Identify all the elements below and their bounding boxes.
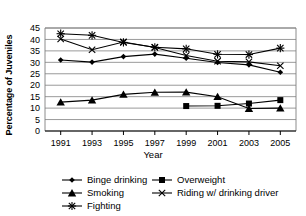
y-axis-title: Percentage of Juveniles (4, 35, 14, 136)
x-tick-label: 1999 (176, 138, 196, 148)
x-tick-label: 1995 (113, 138, 133, 148)
legend-item-overweight[interactable]: Overweight (152, 174, 225, 185)
y-tick-label: 40 (30, 35, 40, 45)
legend-label: Riding w/ drinking driver (177, 187, 278, 198)
data-point (88, 31, 96, 39)
x-tick-label: 1993 (82, 138, 102, 148)
y-tick-label: 30 (30, 58, 40, 68)
data-point (182, 45, 190, 53)
plot-root: 0510152025303540451991199319951997199920… (30, 23, 296, 148)
legend-item-smoking[interactable]: Smoking (62, 187, 124, 198)
data-point (246, 101, 252, 107)
legend-item-binge-drinking[interactable]: Binge drinking (62, 174, 147, 185)
y-tick-label: 0 (35, 126, 40, 136)
data-point (215, 103, 221, 109)
data-point (213, 50, 221, 58)
chart-legend: Binge drinkingOverweightSmokingRiding w/… (62, 174, 278, 211)
x-tick-label: 2003 (239, 138, 259, 148)
y-tick-label: 10 (30, 103, 40, 113)
x-tick-label: 2001 (208, 138, 228, 148)
line-chart: Percentage of Juveniles 0510152025303540… (0, 0, 306, 216)
legend-marker-icon (68, 202, 76, 210)
legend-label: Binge drinking (87, 174, 147, 185)
x-axis-title-text: Year (143, 149, 162, 160)
data-point (152, 51, 158, 57)
legend-label: Overweight (177, 174, 225, 185)
x-tick-label: 2005 (270, 138, 290, 148)
y-tick-label: 5 (35, 115, 40, 125)
legend-marker-icon (159, 177, 165, 183)
data-point (276, 44, 284, 52)
data-point (246, 62, 252, 68)
chart-figure: Percentage of Juveniles 0510152025303540… (0, 0, 306, 216)
y-tick-label: 35 (30, 46, 40, 56)
y-tick-label: 25 (30, 69, 40, 79)
y-tick-label: 20 (30, 80, 40, 90)
x-tick-label: 1991 (51, 138, 71, 148)
data-point (183, 103, 189, 109)
y-axis-title-text: Percentage of Juveniles (4, 35, 14, 136)
y-tick-label: 45 (30, 23, 40, 33)
y-tick-label: 15 (30, 92, 40, 102)
legend-label: Smoking (87, 187, 124, 198)
data-point (277, 97, 283, 103)
x-tick-label: 1997 (145, 138, 165, 148)
data-point (89, 59, 95, 65)
data-point (245, 50, 253, 58)
legend-marker-icon (69, 177, 75, 183)
series-fighting (57, 30, 285, 59)
legend-item-fighting[interactable]: Fighting (62, 200, 121, 211)
data-point (121, 54, 127, 60)
legend-label: Fighting (87, 200, 121, 211)
legend-item-riding-w-drinking-driver[interactable]: Riding w/ drinking driver (152, 187, 278, 198)
